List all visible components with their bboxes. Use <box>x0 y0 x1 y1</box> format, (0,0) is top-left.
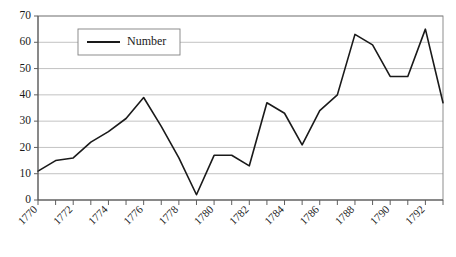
y-tick-label-70: 70 <box>20 9 32 21</box>
x-tick-label-1780: 1780 <box>191 203 215 227</box>
y-axis-ticks <box>34 16 38 200</box>
y-tick-label-30: 30 <box>20 114 32 126</box>
x-tick-label-1772: 1772 <box>51 203 75 227</box>
x-tick-label-1782: 1782 <box>227 203 251 227</box>
x-tick-label-1784: 1784 <box>262 203 286 227</box>
x-tick-label-1770: 1770 <box>15 203 39 227</box>
y-tick-label-50: 50 <box>20 62 32 74</box>
line-chart: 010203040506070 177017721774177617781780… <box>0 0 456 257</box>
x-tick-label-1790: 1790 <box>368 203 392 227</box>
chart-canvas: 010203040506070 177017721774177617781780… <box>0 0 456 257</box>
x-axis-labels: 1770177217741776177817801782178417861788… <box>15 203 426 227</box>
y-tick-label-20: 20 <box>20 141 32 153</box>
chart-legend: Number <box>78 29 180 55</box>
x-tick-label-1786: 1786 <box>297 203 321 227</box>
x-tick-label-1788: 1788 <box>332 203 356 227</box>
x-tick-label-1778: 1778 <box>156 203 180 227</box>
x-tick-label-1774: 1774 <box>86 203 110 227</box>
y-tick-label-40: 40 <box>20 88 32 100</box>
y-tick-label-10: 10 <box>20 167 32 179</box>
x-tick-label-1776: 1776 <box>121 203 145 227</box>
y-tick-label-60: 60 <box>20 35 32 47</box>
x-tick-label-1792: 1792 <box>403 203 427 227</box>
y-axis-labels: 010203040506070 <box>20 9 32 205</box>
legend-label-number: Number <box>127 34 166 48</box>
